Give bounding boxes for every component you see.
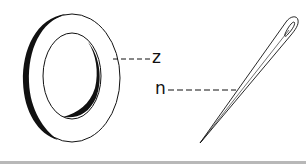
- bottom-border: [0, 161, 306, 164]
- ring-label: z: [152, 49, 161, 66]
- needle-illustration: [200, 17, 298, 143]
- needle-label: n: [155, 80, 166, 97]
- ring-illustration: [23, 14, 120, 142]
- diagram-canvas: [0, 0, 306, 164]
